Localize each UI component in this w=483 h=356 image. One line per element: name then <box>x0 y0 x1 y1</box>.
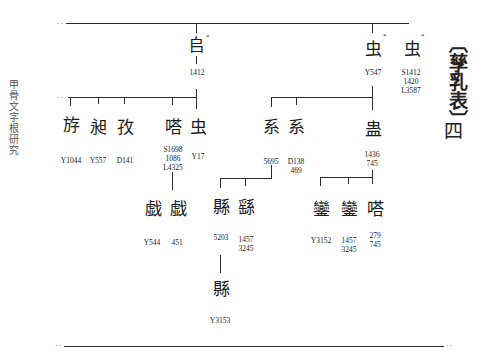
glyph-D141: 孜 <box>112 118 138 136</box>
connector <box>196 56 197 64</box>
glyph-5695: 系 <box>258 118 284 136</box>
star-mark: * <box>206 33 210 41</box>
continuation-dots: ·· <box>55 342 62 350</box>
star-mark: * <box>421 32 425 40</box>
branch-line-right <box>271 97 373 98</box>
connector <box>220 255 221 273</box>
label-D138: D138 469 <box>278 157 314 175</box>
connector <box>196 23 197 33</box>
label-D141: D141 <box>107 156 143 165</box>
glyph-1457b: 鑾 <box>336 200 362 218</box>
top-branch-line <box>66 23 409 24</box>
glyph-279: 嗒 <box>362 200 388 218</box>
branch-line <box>320 177 373 178</box>
branch-line-left <box>68 97 197 98</box>
glyph-Y557: 昶 <box>85 118 111 136</box>
glyph-Y3153: 縣 <box>208 280 234 298</box>
connector <box>348 177 349 184</box>
label-1436: 1436 745 <box>354 150 390 168</box>
connector <box>320 177 321 186</box>
continuation-dots: ·· <box>446 342 453 350</box>
continuation-dots: ·· <box>57 20 64 28</box>
label-Y547: Y547 <box>355 68 391 77</box>
connector <box>372 170 373 184</box>
table-title: 〔孳乳表〕 <box>445 34 467 129</box>
glyph-Y17: 虫 <box>185 118 211 136</box>
bottom-rule <box>64 346 444 347</box>
connector <box>196 89 197 109</box>
label-451: 451 <box>159 238 195 247</box>
glyph-1457a: 繇 <box>233 198 259 216</box>
connector <box>271 165 272 179</box>
glyph-451: 戯 <box>165 200 191 218</box>
continuation-dots: ·· <box>57 94 64 102</box>
label-1457a: 1457 3245 <box>228 235 264 253</box>
glyph-S1698: 嗒 <box>160 118 186 136</box>
glyph-Y1044: 斿 <box>58 116 84 134</box>
glyph-D138: 系 <box>283 118 309 136</box>
star-mark: * <box>383 32 387 40</box>
connector <box>172 172 173 190</box>
connector <box>245 178 246 186</box>
table-number: 四 <box>444 116 463 143</box>
side-running-title: 甲骨文字根研究 <box>6 79 18 156</box>
connector <box>220 178 221 188</box>
connector <box>124 97 125 104</box>
glyph-Y547: 虫 <box>360 40 386 58</box>
connector <box>372 23 373 33</box>
connector <box>70 97 71 106</box>
connector <box>98 97 99 104</box>
label-279: 279 745 <box>357 231 393 249</box>
glyph-5203: 縣 <box>208 198 234 216</box>
glyph-1436: 蛊 <box>360 120 386 138</box>
glyph-S1412: 虫 <box>399 40 425 58</box>
glyph-Y544: 戯 <box>140 200 166 218</box>
label-Y17: Y17 <box>180 152 216 161</box>
label-Y3153: Y3153 <box>202 316 238 325</box>
connector <box>296 97 297 105</box>
label-1412: 1412 <box>179 68 215 77</box>
connector <box>172 97 173 105</box>
label-S1412: S1412 1420 L3587 <box>393 68 429 95</box>
glyph-Y3152: 鑾 <box>308 200 334 218</box>
connector <box>271 97 272 107</box>
